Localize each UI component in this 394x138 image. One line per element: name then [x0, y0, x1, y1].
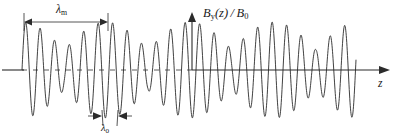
lambda-m-right-arrowhead: [100, 19, 108, 26]
z-axis-symbol: z: [378, 77, 382, 89]
lambda-0-left-arrowhead: [93, 112, 102, 120]
y-axis-rest-subscript: 0: [244, 11, 248, 21]
lambda-0-subscript: 0: [106, 127, 110, 135]
lambda-0-right-tick: [117, 110, 118, 126]
y-axis-symbol: B: [203, 6, 211, 20]
z-axis-arrowhead: [379, 66, 390, 74]
waveform-plot: [0, 0, 394, 138]
waveform-figure: λm λ0 By(z) / B0 z: [0, 0, 394, 138]
y-axis-arrowhead: [188, 12, 196, 22]
z-axis-label: z: [378, 78, 382, 90]
lambda-0-dimension: [88, 110, 132, 126]
lambda-m-label: λm: [56, 4, 67, 17]
lambda-m-subscript: m: [61, 8, 67, 17]
y-axis-rest: (z) / B: [215, 6, 244, 20]
y-axis-label: By(z) / B0: [203, 7, 248, 21]
lambda-0-label: λ0: [101, 123, 109, 135]
